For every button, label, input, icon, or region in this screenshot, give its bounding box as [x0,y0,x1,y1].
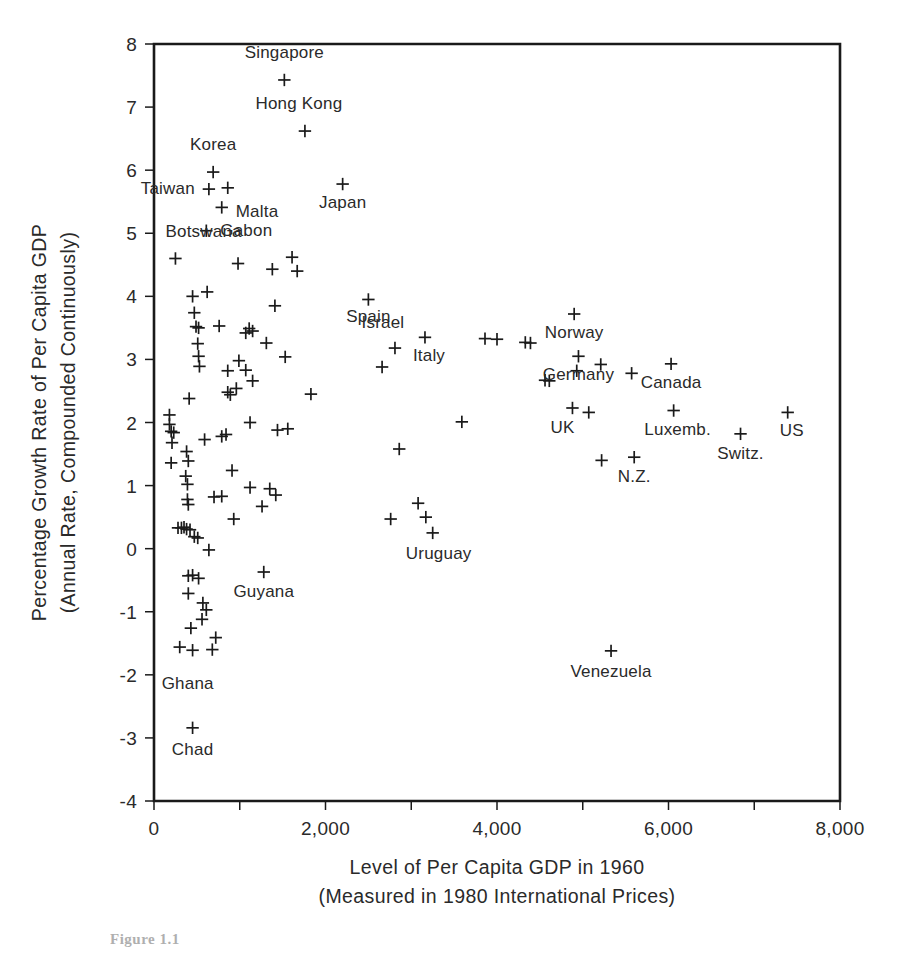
data-point [216,201,228,213]
data-point [183,392,195,404]
data-point [246,375,258,387]
data-point [572,350,584,362]
plot-frame [154,44,840,801]
data-point-label: Israel [362,313,405,332]
y-tick-label: -4 [120,791,138,812]
data-point [266,263,278,275]
data-point-label: Japan [319,193,366,212]
data-point [286,251,298,263]
data-point-labels: SingaporeHong KongKoreaTaiwanJapanMaltaG… [141,43,804,759]
y-axis-title: Percentage Growth Rate of Per Capita GDP [28,224,50,622]
data-point [412,497,424,509]
data-point-label: Ghana [162,674,214,693]
data-point-label: Canada [641,373,702,392]
data-point-label: Taiwan [141,179,195,198]
data-point-label: Botswana [165,222,242,241]
data-point-label: Hong Kong [255,94,342,113]
data-point [222,365,234,377]
data-point [192,532,204,544]
scatter-plot: 02,0004,0006,0008,000-4-3-2-1012345678 S… [0,0,908,957]
data-point [667,404,679,416]
data-point [186,644,198,656]
y-tick-label: 7 [126,97,137,118]
data-point-label: Uruguay [406,544,472,563]
data-point [781,406,793,418]
data-point [180,470,192,482]
y-tick-label: -3 [120,728,138,749]
data-point [278,74,290,86]
data-point [595,454,607,466]
data-point-label: Switz. [717,444,764,463]
x-tick-label: 8,000 [815,818,864,839]
x-tick-label: 2,000 [301,818,350,839]
data-point [192,337,204,349]
y-tick-label: 8 [126,34,137,55]
data-point [244,416,256,428]
x-tick-label: 6,000 [644,818,693,839]
data-point [190,320,202,332]
data-point [583,406,595,418]
data-point [420,511,432,523]
data-point [389,342,401,354]
data-point [192,350,204,362]
data-point [271,424,283,436]
data-point [568,308,580,320]
data-point [376,361,388,373]
data-point [222,182,234,194]
data-point [206,643,218,655]
data-point [226,464,238,476]
y-tick-label: 2 [126,413,137,434]
data-point [256,500,268,512]
data-point [182,587,194,599]
data-point [665,358,677,370]
data-point [299,125,311,137]
data-point [185,622,197,634]
y-tick-label: -1 [120,602,138,623]
data-point [279,351,291,363]
data-point [216,490,228,502]
x-tick-label: 4,000 [472,818,521,839]
data-point [491,333,503,345]
data-point [197,597,209,609]
data-point [232,257,244,269]
y-tick-label: 3 [126,349,137,370]
data-point-label: Italy [413,346,445,365]
data-point [734,428,746,440]
data-point [224,389,236,401]
data-point [264,483,276,495]
data-point [246,325,258,337]
data-point [419,331,431,343]
data-point [233,354,245,366]
data-point [186,290,198,302]
data-point [384,513,396,525]
data-point [305,388,317,400]
data-point [192,322,204,334]
data-point [258,566,270,578]
axes [154,44,840,801]
data-point [566,402,578,414]
data-point-label: Germany [543,365,615,384]
data-point-label: Norway [545,323,604,342]
x-axis-subtitle: (Measured in 1980 International Prices) [318,885,675,907]
data-point [260,337,272,349]
data-point [181,478,193,490]
data-point [186,722,198,734]
data-point [193,360,205,372]
data-point [228,513,240,525]
data-point [165,425,177,437]
data-point-label: UK [550,418,574,437]
data-point [192,572,204,584]
y-tick-label: 4 [126,286,137,307]
data-point-label: Luxemb. [644,420,711,439]
data-point-label: Malta [236,202,279,221]
data-point [207,166,219,178]
data-point [393,443,405,455]
data-point [269,300,281,312]
data-point [240,364,252,376]
data-point [203,544,215,556]
y-tick-label: 0 [126,539,137,560]
y-axis-subtitle: (Annual Rate, Compounded Continuously) [57,232,79,614]
data-point-label: Venezuela [570,662,652,681]
y-tick-label: -2 [120,665,138,686]
data-point [336,178,348,190]
